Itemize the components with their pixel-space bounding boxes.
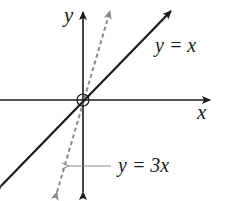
line-label-y-equals-3x: y = 3x: [116, 154, 169, 177]
x-axis-label: x: [196, 100, 207, 124]
graph-canvas: y x y = x y = 3x: [0, 0, 236, 201]
graph-diagram: y x y = x y = 3x: [0, 0, 236, 201]
line-label-y-equals-x: y = x: [153, 34, 196, 57]
y-axis-label: y: [62, 3, 74, 27]
